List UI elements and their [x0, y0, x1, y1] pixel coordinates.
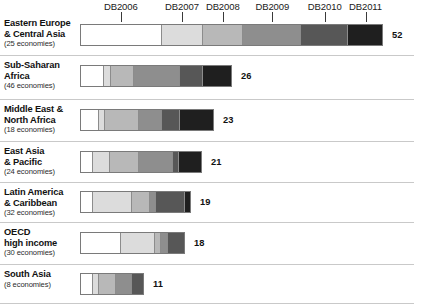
bar-segment-db2011 — [184, 192, 190, 212]
bar-segment-db2009 — [115, 274, 132, 294]
row-economies-count: (46 economies) — [4, 81, 76, 91]
row-economies-count: (25 economies) — [4, 39, 76, 49]
row-economies-count: (24 economies) — [4, 167, 76, 177]
row-economies-count: (8 economies) — [4, 280, 76, 290]
stacked-bar — [80, 24, 383, 46]
bar-segment-db2010 — [155, 192, 183, 212]
bar-segment-db2009 — [138, 152, 172, 172]
bar-segment-db2008 — [131, 192, 148, 212]
row-divider — [0, 55, 414, 56]
bar-segment-db2009 — [242, 25, 300, 45]
bar-segment-db2008 — [104, 110, 138, 130]
bar-segment-db2008 — [109, 152, 137, 172]
bar-segment-db2006 — [81, 192, 92, 212]
bar-segment-db2009 — [133, 66, 179, 86]
stacked-bar — [80, 151, 202, 173]
row-label: South Asia(8 economies) — [4, 269, 76, 289]
bar-segment-db2011 — [178, 152, 201, 172]
row-total-value: 11 — [153, 279, 163, 289]
bar-segment-db2008 — [202, 25, 243, 45]
bar-segment-db2010 — [167, 233, 185, 253]
row-name-line1: Latin America — [4, 187, 76, 198]
bar-segment-db2006 — [81, 233, 120, 253]
bar-segment-db2007 — [92, 152, 109, 172]
stacked-bar — [80, 65, 232, 87]
bar-segment-db2006 — [81, 152, 92, 172]
chart-year-axis: DB2006DB2007DB2008DB2009DB2010DB2011 — [0, 0, 422, 18]
bar-segment-db2010 — [161, 110, 179, 130]
stacked-bar-chart: DB2006DB2007DB2008DB2009DB2010DB2011 Eas… — [0, 0, 422, 308]
row-divider — [0, 182, 414, 183]
row-total-value: 18 — [194, 238, 204, 248]
chart-row: Middle East &North Africa(18 economies)2… — [0, 104, 422, 132]
row-name-line1: South Asia — [4, 269, 76, 280]
row-economies-count: (32 economies) — [4, 208, 76, 218]
bar-segment-db2011 — [347, 25, 382, 45]
row-label: Middle East &North Africa(18 economies) — [4, 104, 76, 135]
stacked-bar — [80, 273, 144, 295]
row-name-line2: & Central Asia — [4, 29, 76, 40]
stacked-bar — [80, 109, 214, 131]
row-name-line1: Sub-Saharan — [4, 60, 76, 71]
row-economies-count: (18 economies) — [4, 125, 76, 135]
stacked-bar — [80, 232, 185, 254]
row-name-line2: high income — [4, 238, 76, 249]
bar-segment-db2008 — [110, 66, 133, 86]
row-name-line2: & Caribbean — [4, 198, 76, 209]
row-name-line1: East Asia — [4, 146, 76, 157]
bar-segment-db2007 — [103, 66, 110, 86]
row-divider — [0, 99, 414, 100]
bar-segment-db2007 — [120, 233, 154, 253]
row-label: East Asia& Pacific(24 economies) — [4, 146, 76, 177]
row-name-line1: OECD — [4, 227, 76, 238]
row-total-value: 52 — [392, 30, 402, 40]
row-divider — [0, 141, 414, 142]
year-label-db2006: DB2006 — [91, 1, 151, 12]
row-name-line2: North Africa — [4, 115, 76, 126]
row-divider — [0, 303, 414, 304]
bar-segment-db2006 — [81, 274, 92, 294]
row-label: Sub-SaharanAfrica(46 economies) — [4, 60, 76, 91]
bar-segment-db2010 — [300, 25, 347, 45]
bar-segment-db2009 — [138, 110, 161, 130]
row-label: OECDhigh income(30 economies) — [4, 227, 76, 258]
row-name-line2: & Pacific — [4, 157, 76, 168]
chart-row: East Asia& Pacific(24 economies)21 — [0, 146, 422, 174]
bar-segment-db2011 — [179, 110, 213, 130]
bar-segment-db2011 — [202, 66, 231, 86]
year-label-db2009: DB2009 — [242, 1, 302, 12]
row-label: Latin America& Caribbean(32 economies) — [4, 187, 76, 218]
chart-row: Sub-SaharanAfrica(46 economies)26 — [0, 60, 422, 88]
row-label: Eastern Europe& Central Asia(25 economie… — [4, 18, 76, 49]
bar-segment-db2007 — [92, 192, 131, 212]
chart-row: OECDhigh income(30 economies)18 — [0, 227, 422, 254]
row-divider — [0, 222, 414, 223]
bar-segment-db2007 — [161, 25, 202, 45]
row-name-line1: Middle East & — [4, 104, 76, 115]
row-total-value: 21 — [211, 157, 221, 167]
bar-segment-db2010 — [131, 274, 143, 294]
chart-row: South Asia(8 economies)11 — [0, 269, 422, 295]
stacked-bar — [80, 191, 191, 213]
row-total-value: 26 — [241, 71, 251, 81]
row-total-value: 23 — [223, 115, 233, 125]
year-label-db2011: DB2011 — [336, 1, 396, 12]
row-name-line2: Africa — [4, 71, 76, 82]
chart-row: Latin America& Caribbean(32 economies)19 — [0, 187, 422, 213]
bar-segment-db2006 — [81, 66, 103, 86]
row-total-value: 19 — [200, 197, 210, 207]
row-economies-count: (30 economies) — [4, 248, 76, 258]
chart-row: Eastern Europe& Central Asia(25 economie… — [0, 18, 422, 48]
bar-segment-db2006 — [81, 110, 98, 130]
bar-segment-db2006 — [81, 25, 161, 45]
row-name-line1: Eastern Europe — [4, 18, 76, 29]
bar-segment-db2008 — [98, 274, 115, 294]
bar-segment-db2010 — [179, 66, 202, 86]
row-divider — [0, 264, 414, 265]
